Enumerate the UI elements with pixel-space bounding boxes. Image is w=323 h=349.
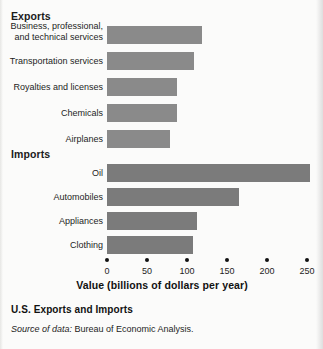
group-heading-imports: Imports <box>11 148 50 160</box>
axis-tick-dot <box>185 258 189 262</box>
bar-row: Royalties and licenses <box>0 78 316 98</box>
axis-tick-label: 0 <box>92 266 122 276</box>
axis-tick-dot <box>225 258 229 262</box>
figure-source-value: Bureau of Economic Analysis. <box>75 324 194 334</box>
axis-tick-label: 250 <box>292 266 322 276</box>
x-axis: 0 50 100 150 200 250 Value (billions of … <box>0 258 316 300</box>
bar-row: Automobiles <box>0 188 316 208</box>
bar-row: Business, professional, and technical se… <box>0 26 316 46</box>
bar-chemicals <box>107 104 177 122</box>
bar-appliances <box>107 212 197 230</box>
x-axis-title-text: Value (billions of dollars per year) <box>76 279 248 291</box>
bar-row: Transportation services <box>0 52 316 72</box>
chart-plot-area: Exports Business, professional, and tech… <box>0 0 316 300</box>
axis-tick-dot <box>265 258 269 262</box>
figure-caption: U.S. Exports and Imports <box>11 304 133 315</box>
bar-label-airplanes: Airplanes <box>0 134 103 145</box>
bar-label-oil: Oil <box>0 168 103 179</box>
bar-label-royalties-and-licenses: Royalties and licenses <box>0 82 103 93</box>
figure-source: Source of data: Bureau of Economic Analy… <box>11 324 194 334</box>
bar-label-chemicals: Chemicals <box>0 108 103 119</box>
bar-business-professional-technical-services <box>107 26 202 44</box>
axis-tick-dot <box>305 258 309 262</box>
bar-label-clothing: Clothing <box>0 240 103 251</box>
axis-tick-label: 100 <box>172 266 202 276</box>
bar-row: Appliances <box>0 212 316 232</box>
bar-row: Chemicals <box>0 104 316 124</box>
bar-transportation-services <box>107 52 194 70</box>
bar-label-business-professional-technical-services: Business, professional, and technical se… <box>0 21 103 42</box>
bar-royalties-and-licenses <box>107 78 177 96</box>
bar-label-automobiles: Automobiles <box>0 192 103 203</box>
axis-tick-label: 200 <box>252 266 282 276</box>
axis-tick-label: 150 <box>212 266 242 276</box>
bar-oil <box>107 164 310 182</box>
bar-airplanes <box>107 130 170 148</box>
bar-label-appliances: Appliances <box>0 216 103 227</box>
x-axis-title: Value (billions of dollars per year) <box>0 279 316 291</box>
figure-source-label: Source of data: <box>11 324 72 334</box>
axis-tick-label: 50 <box>132 266 162 276</box>
axis-tick-dot <box>145 258 149 262</box>
bar-automobiles <box>107 188 239 206</box>
bar-row: Oil <box>0 164 316 184</box>
bar-row: Airplanes <box>0 130 316 150</box>
figure-panel: Exports Business, professional, and tech… <box>0 0 323 349</box>
bar-label-transportation-services: Transportation services <box>0 56 103 67</box>
bar-clothing <box>107 236 193 254</box>
bar-row: Clothing <box>0 236 316 256</box>
axis-tick-dot <box>105 258 109 262</box>
